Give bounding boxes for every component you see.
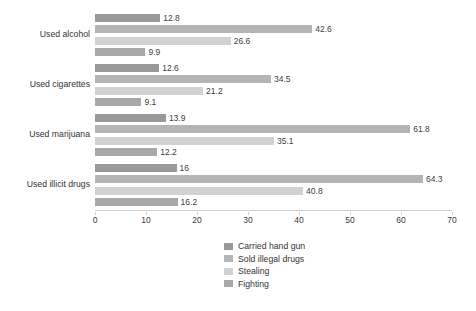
bar [95,37,231,45]
bar [95,175,423,183]
axis-tick-label: 30 [243,215,252,225]
bar-row: 16.2 [95,198,452,206]
bar-row: 34.5 [95,75,452,83]
chart-legend: Carried hand gunSold illegal drugsSteali… [224,240,305,290]
bar-value-label: 21.2 [203,86,223,96]
value-axis-ticks: 010203040506070 [95,212,452,228]
category-label: Used marijuana [2,129,90,139]
legend-swatch-icon [224,280,233,287]
bar-row: 9.9 [95,48,452,56]
category-label: Used illicit drugs [2,179,90,189]
bar-chart: Used alcoholUsed cigarettesUsed marijuan… [0,0,476,311]
bar-value-label: 12.2 [157,147,177,157]
legend-swatch-icon [224,255,233,262]
bar-value-label: 13.9 [166,113,186,123]
axis-tick-label: 50 [345,215,354,225]
bar [95,198,178,206]
bar-value-label: 16.2 [178,197,198,207]
legend-item[interactable]: Sold illegal drugs [224,253,305,266]
bar [95,114,166,122]
category-axis-labels: Used alcoholUsed cigarettesUsed marijuan… [0,10,90,210]
bar-value-label: 34.5 [271,74,291,84]
bar-group: 1664.340.816.2 [95,160,452,210]
bar-row: 61.8 [95,125,452,133]
legend-label: Stealing [238,266,269,276]
legend-swatch-icon [224,268,233,275]
bar-value-label: 40.8 [303,186,323,196]
bar-value-label: 9.9 [145,47,160,57]
bar [95,87,203,95]
bar-row: 40.8 [95,187,452,195]
legend-label: Fighting [238,279,269,289]
bar-row: 12.6 [95,64,452,72]
bar-group: 13.961.835.112.2 [95,110,452,160]
category-label: Used alcohol [2,29,90,39]
bar-row: 12.8 [95,14,452,22]
bar-row: 42.6 [95,25,452,33]
bar [95,137,274,145]
legend-item[interactable]: Fighting [224,278,305,291]
bar [95,148,157,156]
bar [95,64,159,72]
axis-tick-label: 70 [447,215,456,225]
bar-value-label: 16 [177,163,189,173]
bar [95,164,177,172]
bar-row: 9.1 [95,98,452,106]
bar-group: 12.842.626.69.9 [95,10,452,60]
legend-item[interactable]: Stealing [224,265,305,278]
axis-tick-label: 20 [192,215,201,225]
bar-row: 12.2 [95,148,452,156]
axis-tick-label: 40 [294,215,303,225]
bar-group: 12.634.521.29.1 [95,60,452,110]
bar-row: 21.2 [95,87,452,95]
axis-tick-label: 10 [141,215,150,225]
bar-value-label: 42.6 [312,24,332,34]
legend-label: Sold illegal drugs [238,254,304,264]
bar-value-label: 12.6 [159,63,179,73]
legend-item[interactable]: Carried hand gun [224,240,305,253]
bar-value-label: 12.8 [160,13,180,23]
bar-row: 13.9 [95,114,452,122]
bar-value-label: 35.1 [274,136,294,146]
axis-tick-label: 0 [93,215,98,225]
legend-swatch-icon [224,243,233,250]
bar-row: 26.6 [95,37,452,45]
bar [95,48,145,56]
bar-row: 64.3 [95,175,452,183]
bar [95,98,141,106]
plot-area: 12.842.626.69.912.634.521.29.113.961.835… [95,10,452,210]
bar-row: 16 [95,164,452,172]
bar [95,25,312,33]
bar [95,14,160,22]
category-label: Used cigarettes [2,79,90,89]
value-axis-line [95,210,452,211]
bar-row: 35.1 [95,137,452,145]
bar-value-label: 9.1 [141,97,156,107]
bar-value-label: 26.6 [231,36,251,46]
bar-value-label: 64.3 [423,174,443,184]
legend-label: Carried hand gun [238,241,305,251]
bar [95,125,410,133]
axis-tick-label: 60 [396,215,405,225]
bar [95,75,271,83]
bar-value-label: 61.8 [410,124,430,134]
bar [95,187,303,195]
